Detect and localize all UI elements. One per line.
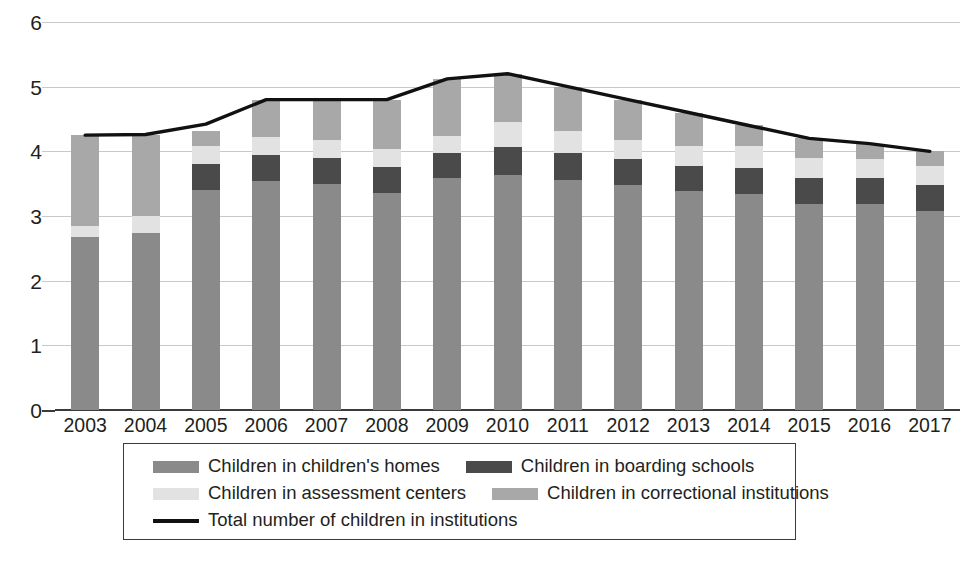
y-axis-tick-mark bbox=[42, 151, 55, 152]
y-axis-tick-label: 5 bbox=[8, 76, 42, 97]
y-axis-tick-label: 6 bbox=[8, 12, 42, 33]
y-axis-tick-label: 3 bbox=[8, 206, 42, 227]
legend-color-swatch-icon bbox=[153, 461, 199, 473]
x-axis-tick-label: 2005 bbox=[177, 416, 235, 436]
x-axis-tick-label: 2009 bbox=[418, 416, 476, 436]
y-axis-tick-mark bbox=[42, 87, 55, 88]
legend-item[interactable]: Children in assessment centers bbox=[153, 484, 466, 503]
x-axis-tick-label: 2011 bbox=[539, 416, 597, 436]
x-axis-tick-label: 2017 bbox=[901, 416, 959, 436]
legend-color-swatch-icon bbox=[153, 488, 199, 500]
x-axis-tick-label: 2014 bbox=[720, 416, 778, 436]
y-axis-tick-label: 0 bbox=[8, 400, 42, 421]
x-axis-tick-label: 2013 bbox=[660, 416, 718, 436]
legend-item-label: Children in assessment centers bbox=[208, 484, 466, 503]
legend-item[interactable]: Children in correctional institutions bbox=[492, 484, 829, 503]
x-axis-tick-label: 2012 bbox=[599, 416, 657, 436]
legend-line-swatch-icon bbox=[153, 519, 199, 523]
y-axis-tick-label: 2 bbox=[8, 270, 42, 291]
legend-item[interactable]: Children in children's homes bbox=[153, 457, 440, 476]
x-axis-tick-label: 2006 bbox=[237, 416, 295, 436]
legend-item-label: Total number of children in institutions bbox=[208, 511, 518, 530]
total-line-path bbox=[85, 74, 930, 152]
x-axis-tick-label: 2003 bbox=[56, 416, 114, 436]
legend-color-swatch-icon bbox=[492, 488, 538, 500]
x-axis-tick-label: 2016 bbox=[841, 416, 899, 436]
legend-item-label: Children in correctional institutions bbox=[547, 484, 829, 503]
y-axis-tick-label: 4 bbox=[8, 141, 42, 162]
y-axis-tick-mark bbox=[42, 345, 55, 346]
x-axis: 2003200420052006200720082009201020112012… bbox=[55, 412, 960, 440]
y-axis-tick-mark bbox=[42, 281, 55, 282]
legend-row-3: Total number of children in institutions bbox=[124, 507, 795, 534]
legend-item[interactable]: Children in boarding schools bbox=[466, 457, 754, 476]
x-axis-tick-label: 2010 bbox=[479, 416, 537, 436]
y-axis-tick-mark bbox=[42, 410, 55, 412]
legend-item[interactable]: Total number of children in institutions bbox=[153, 511, 518, 530]
x-axis-tick-label: 2008 bbox=[358, 416, 416, 436]
legend-item-label: Children in children's homes bbox=[208, 457, 440, 476]
y-axis-tick-mark bbox=[42, 22, 55, 23]
chart-container: 0123456 20032004200520062007200820092010… bbox=[0, 0, 970, 561]
legend-color-swatch-icon bbox=[466, 461, 512, 473]
x-axis-tick-label: 2007 bbox=[298, 416, 356, 436]
total-line-series bbox=[55, 22, 960, 410]
y-axis-tick-label: 1 bbox=[8, 335, 42, 356]
y-axis-tick-mark bbox=[42, 216, 55, 217]
legend-row-2: Children in assessment centersChildren i… bbox=[124, 480, 795, 507]
chart-legend: Children in children's homesChildren in … bbox=[123, 443, 796, 540]
x-axis-tick-label: 2015 bbox=[780, 416, 838, 436]
plot-area bbox=[55, 22, 960, 410]
legend-item-label: Children in boarding schools bbox=[521, 457, 754, 476]
x-axis-tick-label: 2004 bbox=[117, 416, 175, 436]
legend-row-1: Children in children's homesChildren in … bbox=[124, 453, 795, 480]
